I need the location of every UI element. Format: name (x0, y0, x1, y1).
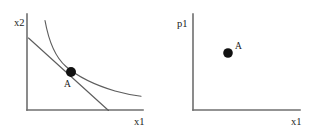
indifference-curve (45, 21, 141, 97)
left-x-axis-label: x1 (134, 116, 145, 127)
left-point-a-label: A (64, 79, 71, 89)
figure-container: x2 x1 A p1 x1 A (0, 0, 320, 135)
chart-panel-left: x2 x1 A (0, 0, 160, 135)
chart-panel-right: p1 x1 A (160, 0, 320, 135)
right-y-axis-label: p1 (177, 18, 188, 29)
right-point-a-dot (223, 48, 233, 58)
left-point-a-dot (66, 67, 76, 77)
right-point-a-label: A (235, 41, 242, 51)
left-y-axis-label: x2 (14, 17, 25, 28)
right-x-axis-label: x1 (291, 116, 302, 127)
